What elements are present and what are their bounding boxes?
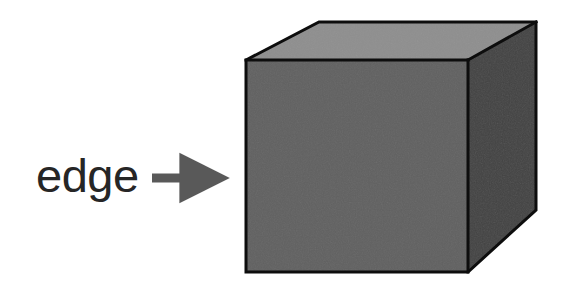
edge-label: edge: [36, 149, 139, 202]
diagram-canvas: edge: [0, 0, 565, 285]
cube-edge-diagram: edge: [0, 0, 565, 285]
cube-front-face-texture: [246, 60, 468, 272]
cube-shape: [246, 22, 536, 272]
